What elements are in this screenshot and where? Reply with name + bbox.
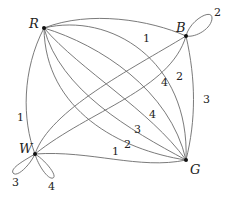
- vertex-label-r: R: [28, 16, 39, 31]
- loop-label-b: 2: [214, 6, 221, 19]
- edge-w-b-2: [35, 36, 186, 154]
- edge-r-g-4b: [44, 28, 186, 160]
- edge-w-g: [35, 153, 186, 162]
- edge-label-b-w: 2: [176, 70, 183, 83]
- edge-b-g: [186, 36, 194, 160]
- edge-label-r-b: 1: [143, 32, 150, 45]
- loop-w-4: [35, 154, 54, 178]
- vertex-label-w: W: [19, 141, 34, 156]
- edge-label-r-g-4a: 4: [149, 108, 156, 121]
- edge-label-w-g: 1: [112, 145, 119, 158]
- edge-r-g-2: [44, 28, 186, 160]
- edge-label-r-g-4b: 4: [161, 76, 168, 89]
- loop-b: [186, 14, 212, 36]
- edge-r-g-3: [44, 28, 186, 160]
- vertex-r: [42, 26, 46, 30]
- edge-r-b: [44, 18, 186, 36]
- edge-label-r-g-3: 3: [134, 123, 141, 136]
- edge-label-b-g: 3: [203, 93, 210, 106]
- graph-diagram: R B W G 1 1 2 3 1 2 3 4 4 2 3 4: [0, 0, 232, 200]
- edge-r-g-outer-top: [44, 25, 186, 160]
- edge-r-w: [26, 28, 44, 154]
- loop-w-3: [13, 154, 35, 174]
- vertex-w: [33, 152, 37, 156]
- vertex-label-b: B: [175, 20, 186, 35]
- vertex-g: [184, 158, 188, 162]
- loop-label-w-4: 4: [48, 180, 55, 193]
- edge-r-g-4a: [44, 28, 186, 160]
- edge-label-r-w: 1: [17, 111, 24, 124]
- loop-label-w-3: 3: [12, 176, 19, 189]
- vertex-label-g: G: [190, 162, 200, 177]
- edge-label-r-g-2: 2: [124, 138, 131, 151]
- edge-b-w: [35, 36, 186, 154]
